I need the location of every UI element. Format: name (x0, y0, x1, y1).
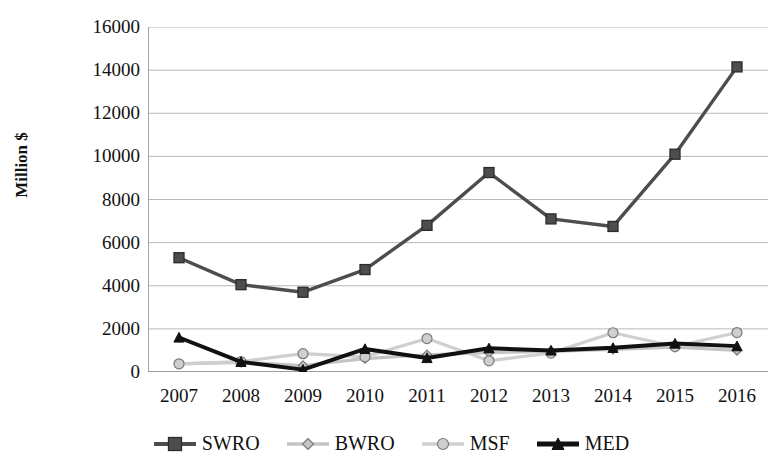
x-axis-tick-label: 2010 (330, 385, 400, 407)
series-med (174, 332, 742, 372)
plot-area (148, 27, 768, 372)
y-axis-tick-label: 0 (40, 362, 140, 381)
circle-marker-icon (422, 334, 432, 344)
circle-marker-icon (732, 328, 742, 338)
y-axis-tick-label: 6000 (40, 233, 140, 252)
x-axis-tick-label: 2013 (516, 385, 586, 407)
square-marker-icon (236, 280, 246, 290)
y-axis-tick-label: 2000 (40, 319, 140, 338)
circle-marker-icon (437, 438, 448, 449)
legend-label: SWRO (202, 432, 260, 455)
circle-marker-icon (608, 328, 618, 338)
series-line (179, 67, 737, 292)
circle-marker-icon (298, 349, 308, 359)
y-axis-tick-label: 4000 (40, 276, 140, 295)
square-marker-icon (360, 265, 370, 275)
x-axis-tick-label: 2012 (454, 385, 524, 407)
legend-label: MED (585, 432, 629, 455)
x-axis-tick-label: 2009 (268, 385, 338, 407)
diamond-marker-icon (302, 438, 313, 449)
square-marker-icon (670, 149, 680, 159)
square-marker-icon (732, 62, 742, 72)
legend-label: MSF (470, 432, 510, 455)
circle-marker-icon (421, 434, 465, 454)
y-axis-tick-label: 16000 (40, 17, 140, 36)
legend-label: BWRO (335, 432, 395, 455)
square-marker-icon (484, 168, 494, 178)
square-marker-icon (298, 287, 308, 297)
x-axis-tick-label: 2008 (206, 385, 276, 407)
y-axis-tick-label: 8000 (40, 190, 140, 209)
legend-item-bwro[interactable]: BWRO (286, 432, 395, 455)
square-marker-icon (608, 221, 618, 231)
y-axis-tick-label: 10000 (40, 146, 140, 165)
square-marker-icon (153, 434, 197, 454)
y-axis-tick-label: 12000 (40, 103, 140, 122)
legend-item-med[interactable]: MED (536, 432, 629, 455)
circle-marker-icon (484, 356, 494, 366)
chart-legend: SWROBWROMSFMED (0, 432, 782, 455)
line-chart: Million $ 020004000600080001000012000140… (0, 0, 782, 473)
square-marker-icon (174, 253, 184, 263)
x-axis-tick-label: 2007 (144, 385, 214, 407)
x-axis-tick-label: 2016 (702, 385, 772, 407)
y-axis-title: Million $ (12, 105, 32, 225)
circle-marker-icon (174, 359, 184, 369)
x-axis-tick-label: 2015 (640, 385, 710, 407)
legend-item-msf[interactable]: MSF (421, 432, 510, 455)
square-marker-icon (168, 437, 181, 450)
diamond-marker-icon (286, 434, 330, 454)
series-swro (174, 62, 742, 297)
square-marker-icon (422, 220, 432, 230)
plot-svg (148, 27, 768, 372)
y-axis-tick-labels: 0200040006000800010000120001400016000 (32, 0, 140, 400)
square-marker-icon (546, 214, 556, 224)
x-axis-tick-label: 2011 (392, 385, 462, 407)
triangle-marker-icon (536, 434, 580, 454)
legend-item-swro[interactable]: SWRO (153, 432, 260, 455)
x-axis-tick-label: 2014 (578, 385, 648, 407)
y-axis-tick-label: 14000 (40, 60, 140, 79)
